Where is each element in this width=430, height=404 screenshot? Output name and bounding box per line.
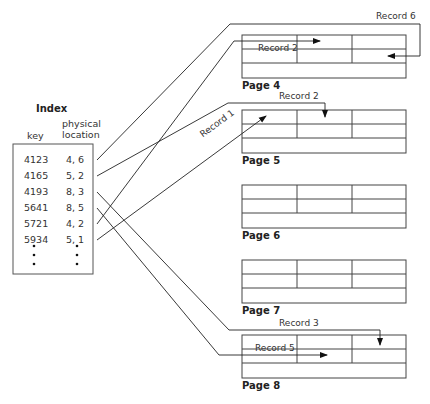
record-6-label: Record 6: [376, 11, 416, 21]
index-key: 5641: [24, 202, 48, 213]
page-4-label: Page 4: [242, 80, 280, 91]
index-key: 4123: [24, 154, 48, 165]
index-key: 5934: [24, 234, 48, 245]
page-5-box: [242, 110, 406, 153]
record-5-label: Record 5: [255, 343, 295, 353]
index-location: 8, 5: [66, 202, 84, 213]
index-location: 4, 6: [66, 154, 84, 165]
record-2-page4-label: Record 2: [258, 43, 298, 53]
diagram-lines: [0, 0, 430, 404]
record-3-label: Record 3: [279, 318, 319, 328]
index-key: 4193: [24, 186, 48, 197]
pointer-record-2-p5: [97, 103, 325, 176]
col-physical-label: physical: [62, 118, 101, 129]
page-7-box: [242, 260, 406, 303]
index-title: Index: [36, 103, 67, 114]
index-key: 4165: [24, 170, 48, 181]
ellipsis-dots: [33, 245, 79, 266]
pointer-record-5: [97, 208, 327, 355]
index-location: 8, 3: [66, 186, 84, 197]
page-6-label: Page 6: [242, 230, 280, 241]
index-location: 5, 1: [66, 234, 84, 245]
col-location-label: location: [62, 129, 100, 140]
record-2-page5-label: Record 2: [279, 91, 319, 101]
pointer-record-3: [97, 192, 380, 345]
col-key-label: key: [27, 130, 44, 141]
index-key: 5721: [24, 218, 48, 229]
index-location: 5, 2: [66, 170, 84, 181]
index-location: 4, 2: [66, 218, 84, 229]
page-6-box: [242, 185, 406, 228]
page-8-label: Page 8: [242, 380, 280, 391]
page-8-box: [242, 335, 406, 378]
page-5-label: Page 5: [242, 155, 280, 166]
page-7-label: Page 7: [242, 305, 280, 316]
